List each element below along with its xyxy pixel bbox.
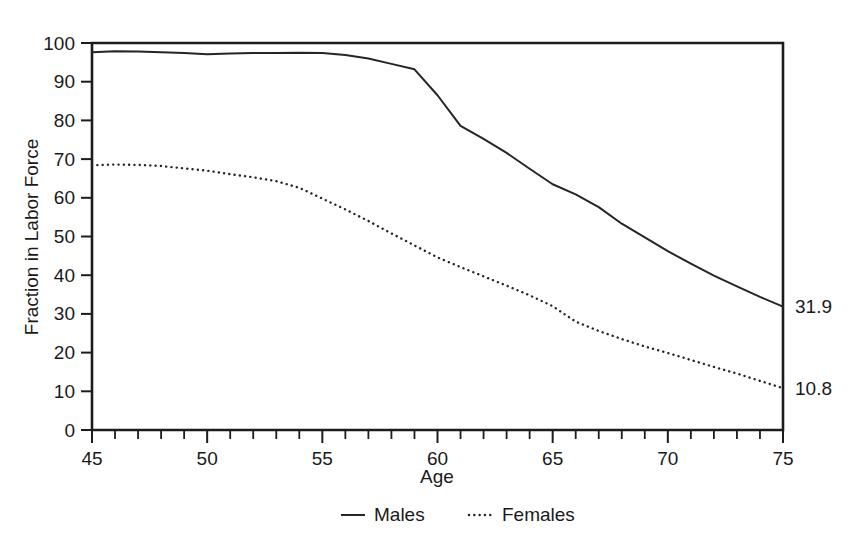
y-axis-title: Fraction in Labor Force: [21, 139, 42, 335]
series-line-males: [92, 51, 783, 306]
y-tick-label: 40: [54, 265, 75, 286]
series-line-females: [92, 165, 783, 389]
y-axis-tick-labels: 0102030405060708090100: [43, 33, 75, 441]
y-tick-label: 30: [54, 303, 75, 324]
legend-label-males: Males: [374, 504, 425, 525]
plot-frame: [92, 43, 783, 430]
y-tick-label: 20: [54, 342, 75, 363]
series-end-label-females: 10.8: [795, 378, 832, 399]
chart-legend: MalesFemales: [341, 504, 575, 525]
x-tick-label: 45: [81, 448, 102, 469]
x-tick-label: 70: [657, 448, 678, 469]
legend-label-females: Females: [502, 504, 575, 525]
x-tick-label: 55: [312, 448, 333, 469]
y-tick-label: 80: [54, 110, 75, 131]
series-end-label-males: 31.9: [795, 296, 832, 317]
y-tick-label: 90: [54, 71, 75, 92]
x-axis-title: Age: [420, 466, 454, 487]
x-tick-label: 50: [197, 448, 218, 469]
data-series-layer: [92, 51, 783, 388]
y-axis-ticks: [81, 43, 92, 430]
y-tick-label: 0: [64, 420, 75, 441]
y-tick-label: 50: [54, 226, 75, 247]
labor-force-participation-chart: 0102030405060708090100 45505560657075 31…: [0, 0, 852, 556]
x-tick-label: 65: [542, 448, 563, 469]
y-tick-label: 100: [43, 33, 75, 54]
y-tick-label: 10: [54, 381, 75, 402]
chart-container: 0102030405060708090100 45505560657075 31…: [0, 0, 852, 556]
x-axis-major-ticks: [92, 430, 783, 443]
series-end-labels: 31.910.8: [795, 296, 832, 399]
y-tick-label: 70: [54, 149, 75, 170]
x-tick-label: 75: [772, 448, 793, 469]
y-tick-label: 60: [54, 187, 75, 208]
